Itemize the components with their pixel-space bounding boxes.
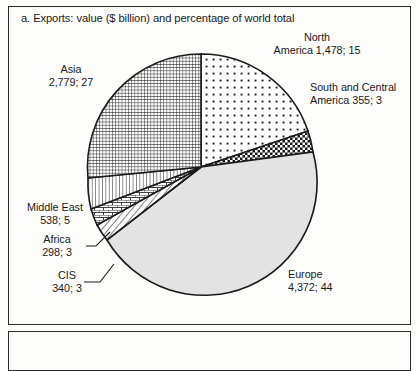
label-line-1: CIS [58, 269, 76, 281]
pie-slices [87, 54, 317, 295]
slice-label-cis: CIS 340; 3 [32, 269, 102, 295]
label-line-1: South and Central [310, 81, 396, 93]
slice-label-middle-east: Middle East 538; 5 [8, 201, 102, 227]
label-line-2: 298; 3 [18, 246, 96, 259]
label-line-1: Middle East [27, 201, 83, 213]
label-line-2: America 1,478; 15 [252, 44, 382, 57]
label-line-1: Africa [43, 233, 70, 245]
label-line-2: 2,779; 27 [28, 76, 114, 89]
next-panel-fragment [8, 331, 411, 371]
slice-label-asia: Asia 2,779; 27 [28, 63, 114, 89]
label-line-2: 4,372; 44 [288, 281, 398, 294]
slice-label-north-america: North America 1,478; 15 [252, 31, 382, 57]
label-line-1: Europe [288, 268, 323, 280]
slice-label-south-central-america: South and Central America 355; 3 [310, 81, 419, 107]
label-line-1: North [304, 31, 330, 43]
label-line-1: Asia [61, 63, 82, 75]
label-line-2: America 355; 3 [310, 94, 419, 107]
label-line-2: 538; 5 [8, 214, 102, 227]
slice-label-europe: Europe 4,372; 44 [288, 268, 398, 294]
slice-label-africa: Africa 298; 3 [18, 233, 96, 259]
label-line-2: 340; 3 [32, 282, 102, 295]
